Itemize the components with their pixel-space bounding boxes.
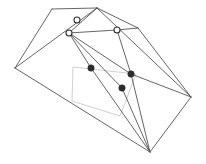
open-circle-marker xyxy=(74,17,80,23)
wireframe-edge xyxy=(117,30,131,74)
wireframe-edge xyxy=(52,8,97,9)
filled-dot-marker xyxy=(119,85,125,91)
wireframe-edge xyxy=(69,33,122,88)
wireframe-edge xyxy=(69,8,97,33)
open-circle-marker-group xyxy=(66,17,120,36)
edge-group xyxy=(15,8,191,152)
wireframe-edge xyxy=(15,8,97,68)
wireframe-edge xyxy=(122,88,150,152)
filled-dot-marker-group xyxy=(88,65,134,91)
wireframe-edge xyxy=(69,30,117,33)
filled-dot-marker xyxy=(128,71,134,77)
wireframe-edge xyxy=(69,33,91,68)
filled-dot-marker xyxy=(88,65,94,71)
wireframe-edge xyxy=(131,74,150,152)
wireframe-diagram xyxy=(0,0,206,164)
wireframe-edge xyxy=(97,8,191,97)
figure-container xyxy=(0,0,206,164)
wireframe-edge xyxy=(150,97,191,152)
wireframe-edge xyxy=(15,68,150,152)
open-circle-marker xyxy=(66,30,72,36)
ghost-quadrilateral xyxy=(72,67,136,116)
wireframe-edge xyxy=(97,8,138,28)
open-circle-marker xyxy=(114,27,120,33)
wireframe-edge xyxy=(15,9,52,68)
